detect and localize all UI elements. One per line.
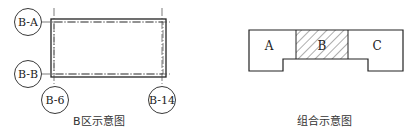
svg-text:B-B: B-B (18, 68, 38, 81)
region-b-label: B (318, 39, 327, 53)
axis-grid-rect (54, 22, 163, 74)
region-a-label: A (264, 39, 274, 53)
axis-bubble-b-a: B-A (15, 9, 42, 36)
axis-bubble-b-6: B-6 (42, 87, 69, 114)
building-outline (51, 19, 166, 77)
axis-bubble-b-b: B-B (15, 61, 42, 88)
b-zone-caption: B区示意图 (73, 112, 125, 128)
svg-text:B-A: B-A (18, 16, 39, 29)
combination-diagram: A B C (249, 30, 403, 71)
svg-text:B-6: B-6 (45, 94, 64, 107)
axis-bubble-b-14: B-14 (149, 87, 176, 114)
combination-caption: 组合示意图 (297, 112, 352, 128)
svg-text:B-14: B-14 (149, 94, 175, 107)
b-zone-diagram: B-A B-B B-6 B-14 (15, 8, 176, 114)
region-c-label: C (372, 39, 381, 53)
